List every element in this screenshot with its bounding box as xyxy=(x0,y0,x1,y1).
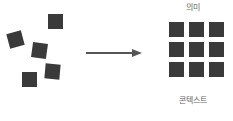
grid-square xyxy=(169,22,184,37)
grid-square xyxy=(189,22,204,37)
scattered-square xyxy=(44,63,60,79)
grid-square xyxy=(209,22,224,37)
grid-square xyxy=(189,62,204,77)
grid-square xyxy=(169,62,184,77)
scattered-square xyxy=(48,14,63,29)
grid-square xyxy=(189,42,204,57)
arrow-right-icon xyxy=(86,48,142,58)
grid-square xyxy=(209,62,224,77)
scattered-square xyxy=(6,30,24,48)
scattered-square xyxy=(31,42,48,59)
bottom-label: 콘텍스트 xyxy=(163,94,223,105)
grid-square xyxy=(209,42,224,57)
scattered-square xyxy=(22,72,37,87)
top-label: 의미 xyxy=(163,1,223,12)
grid-square xyxy=(169,42,184,57)
